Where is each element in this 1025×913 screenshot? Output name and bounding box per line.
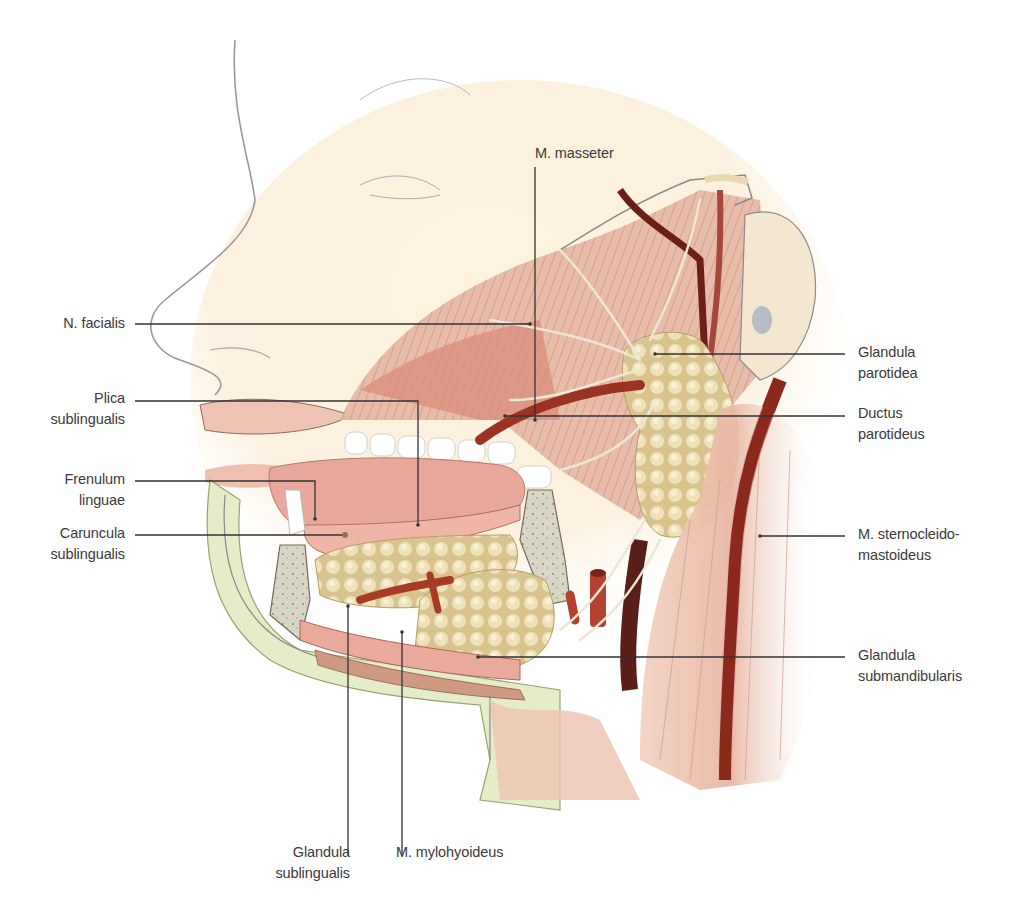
label-n-facialis: N. facialis <box>63 313 125 334</box>
label-glandula-sublingualis: Glandula sublingualis <box>275 842 350 884</box>
label-ductus-parotideus: Ductus parotideus <box>858 403 925 445</box>
label-caruncula-sublingualis: Caruncula sublingualis <box>50 523 125 565</box>
anatomical-illustration: N. facialis Plica sublingualis Frenulum … <box>0 0 1025 913</box>
label-glandula-parotidea: Glandula parotidea <box>858 342 918 384</box>
head-dissection-drawing <box>0 0 1025 913</box>
label-frenulum-linguae: Frenulum linguae <box>65 469 125 511</box>
label-m-mylohyoideus: M. mylohyoideus <box>396 842 503 863</box>
label-m-masseter: M. masseter <box>535 143 614 164</box>
label-glandula-submandibularis: Glandula submandibularis <box>858 645 962 687</box>
label-plica-sublingualis: Plica sublingualis <box>50 388 125 430</box>
label-m-sternocleidomastoideus: M. sternocleido- mastoideus <box>858 524 960 566</box>
